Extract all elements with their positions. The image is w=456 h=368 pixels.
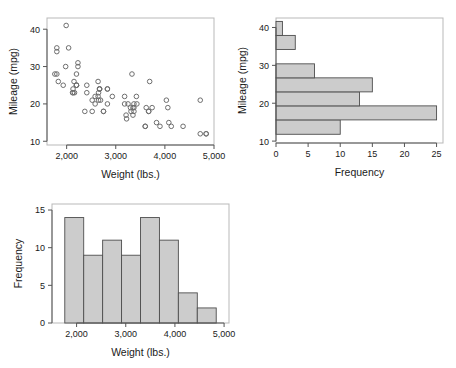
- y-axis: 10203040: [30, 25, 47, 147]
- svg-text:10: 10: [335, 149, 345, 159]
- x-axis: 0510152025: [273, 143, 441, 159]
- histogram-bar: [103, 240, 122, 323]
- y-axis-title: Mileage (mpg): [236, 47, 248, 114]
- svg-text:10: 10: [35, 243, 45, 253]
- svg-text:0: 0: [40, 318, 45, 328]
- svg-text:40: 40: [30, 25, 40, 35]
- histogram-bar: [276, 35, 295, 49]
- svg-text:20: 20: [259, 99, 269, 109]
- histogram-bar: [276, 106, 437, 120]
- svg-text:40: 40: [259, 23, 269, 33]
- histogram-bar: [276, 120, 340, 134]
- histogram-bar: [197, 308, 216, 323]
- y-axis: 10203040: [259, 23, 276, 147]
- svg-text:4,000: 4,000: [164, 329, 187, 339]
- x-axis-title: Weight (lbs.): [101, 168, 160, 180]
- svg-text:10: 10: [30, 137, 40, 147]
- svg-text:30: 30: [259, 61, 269, 71]
- panel-scatter-mileage-vs-weight: 10203040Mileage (mpg)2,0003,0004,0005,00…: [0, 0, 228, 190]
- histogram-bar: [276, 78, 372, 92]
- histogram-bar: [65, 218, 84, 323]
- svg-text:30: 30: [30, 62, 40, 72]
- histogram-bar: [159, 240, 178, 323]
- y-axis-title: Frequency: [12, 238, 24, 288]
- svg-text:20: 20: [399, 149, 409, 159]
- svg-text:5,000: 5,000: [213, 329, 236, 339]
- svg-text:15: 15: [367, 149, 377, 159]
- scatter-plot: 10203040Mileage (mpg)2,0003,0004,0005,00…: [0, 0, 228, 190]
- svg-text:3,000: 3,000: [104, 151, 127, 161]
- histogram-bar: [122, 255, 141, 323]
- panel-histogram-weight: 051015Frequency2,0003,0004,0005,000Weigh…: [0, 186, 245, 368]
- histogram-bar: [178, 293, 197, 323]
- y-axis-title: Mileage (mpg): [7, 48, 19, 115]
- svg-text:5: 5: [306, 149, 311, 159]
- y-axis: 051015: [35, 205, 52, 328]
- histogram-bar: [276, 64, 315, 78]
- svg-text:5,000: 5,000: [203, 151, 226, 161]
- x-axis: 2,0003,0004,0005,000: [65, 323, 235, 339]
- svg-text:0: 0: [273, 149, 278, 159]
- x-axis-title: Frequency: [335, 166, 385, 178]
- x-axis-title: Weight (lbs.): [111, 346, 170, 358]
- svg-text:25: 25: [432, 149, 442, 159]
- histogram-bar: [141, 218, 160, 323]
- histogram-bar: [276, 92, 360, 106]
- histogram-bar: [276, 21, 282, 35]
- panel-histogram-mileage: 10203040Mileage (mpg)0510152025Frequency: [228, 0, 456, 190]
- svg-text:4,000: 4,000: [154, 151, 177, 161]
- x-axis: 2,0003,0004,0005,000: [55, 145, 225, 161]
- histogram-bar: [84, 255, 103, 323]
- svg-text:5: 5: [40, 281, 45, 291]
- svg-text:3,000: 3,000: [114, 329, 137, 339]
- svg-text:2,000: 2,000: [55, 151, 78, 161]
- svg-text:10: 10: [259, 137, 269, 147]
- svg-text:20: 20: [30, 99, 40, 109]
- svg-text:2,000: 2,000: [65, 329, 88, 339]
- mileage-histogram: 10203040Mileage (mpg)0510152025Frequency: [228, 0, 456, 190]
- svg-text:15: 15: [35, 205, 45, 215]
- weight-histogram: 051015Frequency2,0003,0004,0005,000Weigh…: [0, 186, 245, 368]
